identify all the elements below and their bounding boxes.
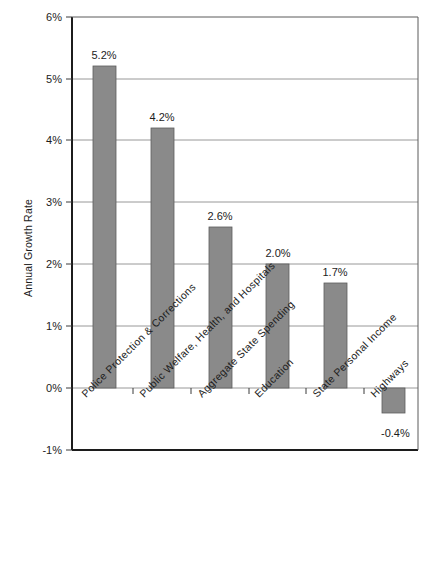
value-label: 2.0% xyxy=(265,247,290,259)
bar-chart: 6% 5% 4% 3% 2% 1% 0% -1% Annual Growth R… xyxy=(0,0,436,588)
plot-background xyxy=(72,17,418,450)
bar-police-protection-corrections xyxy=(93,66,116,388)
y-tick-label: -1% xyxy=(42,444,62,456)
y-tick-label: 1% xyxy=(46,320,62,332)
value-label: -0.4% xyxy=(381,427,410,439)
bar-highways xyxy=(382,388,405,413)
y-tick-label: 0% xyxy=(46,382,62,394)
y-axis-tick-labels: 6% 5% 4% 3% 2% 1% 0% -1% xyxy=(42,11,62,456)
y-tick-label: 4% xyxy=(46,134,62,146)
y-tick-label: 3% xyxy=(46,196,62,208)
y-tick-label: 2% xyxy=(46,258,62,270)
y-axis-title: Annual Growth Rate xyxy=(22,199,34,297)
value-label: 1.7% xyxy=(322,266,347,278)
value-label: 4.2% xyxy=(149,111,174,123)
chart-canvas: 6% 5% 4% 3% 2% 1% 0% -1% Annual Growth R… xyxy=(0,0,436,588)
y-tick-label: 5% xyxy=(46,73,62,85)
y-tick-label: 6% xyxy=(46,11,62,23)
value-label: 5.2% xyxy=(91,49,116,61)
value-label: 2.6% xyxy=(207,210,232,222)
bar-public-welfare-health-hospitals xyxy=(151,128,174,388)
